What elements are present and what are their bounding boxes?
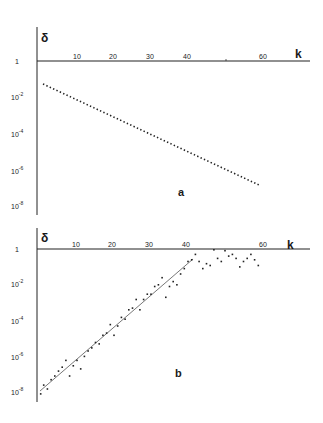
data-point bbox=[106, 332, 108, 334]
figure: δ k 10 20 30 40 60 1 10-2 10-4 10-6 10-8… bbox=[0, 0, 323, 423]
panel-label-a: a bbox=[178, 186, 185, 198]
data-point bbox=[187, 261, 189, 263]
y-tick-1-a: 1 bbox=[15, 58, 19, 65]
data-point bbox=[213, 249, 215, 251]
data-point bbox=[172, 281, 174, 283]
data-point bbox=[209, 265, 211, 267]
data-point bbox=[184, 268, 186, 270]
data-point bbox=[121, 317, 123, 319]
svg-text:10-2: 10-2 bbox=[11, 91, 23, 101]
data-point bbox=[43, 384, 45, 386]
y-tick-1e-8-a: 10-8 bbox=[11, 200, 23, 210]
data-point bbox=[239, 266, 241, 268]
data-point bbox=[58, 370, 60, 372]
data-point bbox=[98, 343, 100, 345]
svg-text:10-4: 10-4 bbox=[11, 128, 23, 138]
y-axis-label-a: δ bbox=[41, 31, 48, 45]
svg-text:10-6: 10-6 bbox=[11, 165, 23, 175]
data-point bbox=[113, 335, 115, 337]
data-point bbox=[254, 259, 256, 261]
data-point bbox=[235, 258, 237, 260]
svg-text:10-6: 10-6 bbox=[11, 351, 23, 361]
y-tick-1e-2-b: 10-2 bbox=[11, 278, 23, 288]
y-tick-1e-6-a: 10-6 bbox=[11, 165, 23, 175]
data-point bbox=[206, 263, 208, 265]
x-tick-20-a: 20 bbox=[109, 53, 117, 60]
data-point bbox=[102, 335, 104, 337]
x-tick-60-b: 60 bbox=[259, 241, 267, 248]
data-point bbox=[124, 318, 126, 320]
data-point bbox=[250, 254, 252, 256]
data-point bbox=[228, 255, 230, 257]
chart-a: δ k 10 20 30 40 60 1 10-2 10-4 10-6 10-8… bbox=[11, 27, 310, 215]
y-tick-1e-6-b: 10-6 bbox=[11, 351, 23, 361]
svg-text:10-4: 10-4 bbox=[11, 315, 23, 325]
x-tick-60-a: 60 bbox=[259, 53, 267, 60]
data-point bbox=[128, 309, 130, 311]
fit-line-b bbox=[40, 259, 193, 391]
data-point bbox=[224, 250, 226, 252]
svg-text:10-2: 10-2 bbox=[11, 278, 23, 288]
x-tick-30-a: 30 bbox=[146, 53, 154, 60]
panel-label-b: b bbox=[175, 367, 182, 379]
x-tick-20-b: 20 bbox=[108, 241, 116, 248]
data-point bbox=[243, 261, 245, 263]
y-tick-1e-8-b: 10-8 bbox=[11, 386, 23, 396]
data-point bbox=[132, 307, 134, 309]
data-point bbox=[169, 286, 171, 288]
data-point bbox=[54, 375, 56, 377]
data-point bbox=[147, 293, 149, 295]
x-axis-label-b: k bbox=[287, 238, 294, 252]
data-point bbox=[84, 356, 86, 358]
data-point bbox=[195, 254, 197, 256]
svg-text:10-8: 10-8 bbox=[11, 386, 23, 396]
data-point bbox=[73, 365, 75, 367]
x-axis-label-a: k bbox=[295, 47, 302, 61]
data-point bbox=[117, 325, 119, 327]
data-point bbox=[87, 350, 89, 352]
data-point bbox=[202, 268, 204, 270]
x-tick-10-a: 10 bbox=[73, 53, 81, 60]
data-point bbox=[232, 254, 234, 256]
data-point bbox=[191, 259, 193, 261]
data-point bbox=[198, 261, 200, 263]
x-tick-10-b: 10 bbox=[72, 241, 80, 248]
svg-text:10-8: 10-8 bbox=[11, 200, 23, 210]
data-point bbox=[139, 309, 141, 311]
data-point bbox=[91, 347, 93, 349]
data-point bbox=[76, 360, 78, 362]
data-point bbox=[40, 393, 42, 395]
x-tick-30-b: 30 bbox=[145, 241, 153, 248]
y-axis-label-b: δ bbox=[41, 231, 48, 245]
data-point bbox=[246, 258, 248, 260]
data-point bbox=[135, 299, 137, 301]
data-point bbox=[176, 284, 178, 286]
chart-b: δ k 10 20 30 40 60 1 10-2 10-4 10-6 10-8… bbox=[11, 228, 310, 402]
data-point bbox=[150, 293, 152, 295]
x-tick-40-a: 40 bbox=[183, 53, 191, 60]
data-point bbox=[158, 284, 160, 286]
data-point bbox=[258, 265, 260, 267]
scatter-points-b bbox=[40, 249, 259, 395]
data-point bbox=[180, 273, 182, 275]
y-tick-1e-4-a: 10-4 bbox=[11, 128, 23, 138]
y-tick-1-b: 1 bbox=[15, 246, 19, 253]
x-tick-40-b: 40 bbox=[182, 241, 190, 248]
y-tick-1e-4-b: 10-4 bbox=[11, 315, 23, 325]
data-point bbox=[161, 277, 163, 279]
data-point bbox=[110, 324, 112, 326]
data-point bbox=[143, 299, 145, 301]
data-point bbox=[217, 258, 219, 260]
data-point bbox=[165, 297, 167, 299]
data-point bbox=[95, 342, 97, 344]
data-point bbox=[69, 375, 71, 377]
data-point bbox=[50, 379, 52, 381]
data-point bbox=[154, 286, 156, 288]
data-point bbox=[80, 368, 82, 370]
data-point bbox=[65, 360, 67, 362]
x-tick-50-a bbox=[225, 59, 226, 60]
data-point bbox=[221, 261, 223, 263]
data-point bbox=[61, 366, 63, 368]
data-point bbox=[47, 388, 49, 390]
dotted-series-a bbox=[43, 84, 259, 185]
